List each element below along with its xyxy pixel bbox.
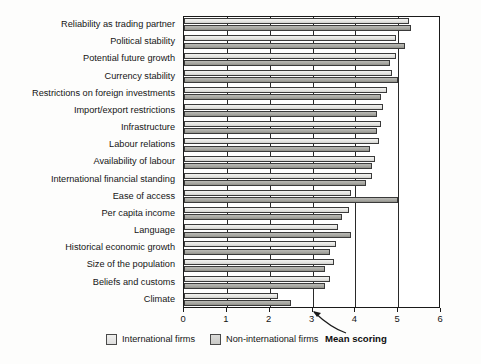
bar-row [184, 223, 439, 240]
bar-non-international-firms [184, 249, 330, 255]
bar-non-international-firms [184, 25, 411, 31]
bar-row [184, 86, 439, 103]
bar-rows [184, 17, 439, 307]
bar-international-firms [184, 173, 372, 179]
bar-row [184, 172, 439, 189]
mean-scoring-annotation: Mean scoring [325, 330, 387, 348]
category-label: Potential future growth [83, 50, 175, 67]
bar-non-international-firms [184, 232, 351, 238]
category-label: International financial standing [51, 171, 175, 188]
bar-row [184, 240, 439, 257]
international-firms-swatch [106, 334, 117, 345]
bar-row [184, 120, 439, 137]
bar-international-firms [184, 104, 383, 110]
bar-non-international-firms [184, 60, 390, 66]
axis-tick [312, 308, 313, 312]
bar-international-firms [184, 190, 351, 196]
bar-row [184, 137, 439, 154]
category-label: Ease of access [113, 188, 175, 205]
chart-figure: Reliability as trading partnerPolitical … [0, 0, 481, 364]
bar-non-international-firms [184, 180, 366, 186]
axis-tick [183, 308, 184, 312]
bar-international-firms [184, 241, 336, 247]
bar-international-firms [184, 35, 396, 41]
bar-non-international-firms [184, 283, 325, 289]
bar-non-international-firms [184, 77, 398, 83]
bar-international-firms [184, 207, 349, 213]
bar-row [184, 206, 439, 223]
axis-tick-label: 2 [266, 313, 271, 324]
bar-international-firms [184, 276, 330, 282]
category-label: Reliability as trading partner [61, 16, 175, 33]
legend-label-non-international-firms: Non-international firms [226, 334, 318, 344]
bar-non-international-firms [184, 266, 325, 272]
bar-international-firms [184, 87, 387, 93]
bar-non-international-firms [184, 197, 398, 203]
bar-row [184, 103, 439, 120]
bar-row [184, 51, 439, 68]
axis-tick [354, 308, 355, 312]
chart-legend: International firms Non-international fi… [106, 330, 328, 348]
bar-non-international-firms [184, 300, 291, 306]
bar-non-international-firms [184, 214, 342, 220]
category-label: Restrictions on foreign investments [32, 85, 175, 102]
bar-international-firms [184, 121, 381, 127]
category-label: Political stability [110, 33, 175, 50]
bar-non-international-firms [184, 94, 381, 100]
axis-tick [440, 308, 441, 312]
category-label: Labour relations [109, 136, 175, 153]
bar-non-international-firms [184, 146, 370, 152]
bar-international-firms [184, 70, 392, 76]
bar-row [184, 275, 439, 292]
axis-tick-label: 4 [352, 313, 357, 324]
category-label: Availability of labour [93, 153, 175, 170]
bar-non-international-firms [184, 128, 377, 134]
bar-international-firms [184, 156, 375, 162]
bar-non-international-firms [184, 111, 377, 117]
axis-tick-label: 6 [437, 313, 442, 324]
axis-tick-label: 0 [180, 313, 185, 324]
category-label: Size of the population [87, 256, 175, 273]
bar-row [184, 34, 439, 51]
bar-row [184, 154, 439, 171]
bar-row [184, 17, 439, 34]
bar-international-firms [184, 18, 409, 24]
bar-international-firms [184, 224, 338, 230]
bar-row [184, 257, 439, 274]
bar-row [184, 69, 439, 86]
axis-tick-label: 5 [395, 313, 400, 324]
category-label: Beliefs and customs [93, 274, 175, 291]
plot-area [183, 16, 440, 308]
category-label: Per capita income [101, 205, 175, 222]
value-axis: 0123456 [183, 308, 440, 330]
axis-tick [397, 308, 398, 312]
bar-row [184, 292, 439, 309]
category-label: Climate [144, 291, 175, 308]
category-label: Historical economic growth [65, 239, 175, 256]
category-axis-labels: Reliability as trading partnerPolitical … [0, 16, 180, 308]
axis-tick [269, 308, 270, 312]
legend-label-international-firms: International firms [122, 334, 195, 344]
category-label: Currency stability [105, 68, 175, 85]
bar-international-firms [184, 53, 396, 59]
bar-row [184, 189, 439, 206]
axis-tick-label: 3 [309, 313, 314, 324]
non-international-firms-swatch [210, 334, 221, 345]
category-label: Import/export restrictions [74, 102, 175, 119]
axis-tick-label: 1 [223, 313, 228, 324]
bar-non-international-firms [184, 43, 405, 49]
bar-international-firms [184, 138, 379, 144]
bar-non-international-firms [184, 163, 372, 169]
bar-international-firms [184, 293, 278, 299]
category-label: Infrastructure [121, 119, 175, 136]
category-label: Language [134, 222, 175, 239]
axis-tick [226, 308, 227, 312]
bar-international-firms [184, 259, 334, 265]
